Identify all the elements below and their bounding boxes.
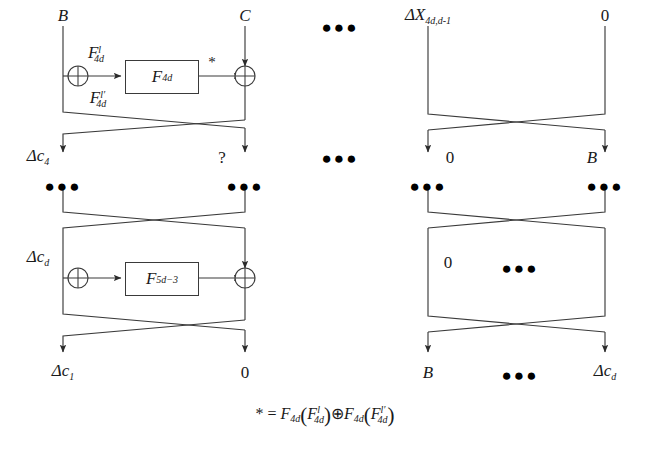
formula-star: *: [256, 405, 264, 422]
input-label-c: C: [239, 7, 250, 24]
f-box-row1-sub: 4d: [162, 72, 172, 83]
xor-gate-row3-right: [235, 268, 255, 288]
delta-x-sub: 4d,d-1: [425, 15, 451, 26]
output-label-delta-c1: Δc1: [52, 362, 75, 382]
row2-label-delta-c4: Δc4: [27, 147, 50, 167]
xor-gate-row1-right: [235, 66, 255, 86]
row3-ellipsis: ●●●: [502, 260, 539, 277]
f-function-box-row3[interactable]: F5d−3: [125, 262, 199, 296]
row3-label-delta-cd: Δcd: [27, 248, 50, 268]
row3-label-zero: 0: [444, 254, 453, 271]
wire-cross-3a: [63, 308, 245, 330]
row2-vertical-ellipsis-1: ●●●: [45, 178, 82, 195]
wire-cross-2c: [428, 190, 605, 228]
delta-cd-base: Δc: [27, 247, 45, 266]
wire-cross-2a: [63, 190, 245, 228]
wire-cross-2d: [428, 190, 605, 228]
row4-ellipsis: ●●●: [502, 367, 539, 384]
wire-cross-2b: [63, 190, 245, 244]
formula-xor: ⊕: [331, 405, 344, 422]
wire-cross-1c: [428, 108, 605, 130]
formula-close2: ): [387, 403, 394, 427]
wire-cross-3c: [428, 310, 605, 332]
delta-cd-out-sub: d: [611, 371, 616, 382]
wire-cross-1a: [63, 106, 245, 128]
row2-vertical-ellipsis-4: ●●●: [587, 178, 624, 195]
diagram-canvas: B C ●●● ΔX4d,d-1 0 Fl4d Fl′4d F4d * Δc4 …: [0, 0, 648, 454]
delta-x-base: ΔX: [405, 5, 425, 24]
delta-c4-base: Δc: [27, 146, 45, 165]
delta-cd-out-base: Δc: [594, 361, 612, 380]
f-box-row3-label: F: [146, 269, 156, 289]
row2-vertical-ellipsis-2: ●●●: [227, 178, 264, 195]
delta-c4-sub: 4: [44, 156, 49, 167]
output-label-zero: 0: [241, 364, 250, 381]
branch-label-bottom-row1: Fl′4d: [90, 89, 106, 109]
xor-gate-row1-left: [68, 66, 88, 86]
branch-top-sub: 4d: [94, 53, 104, 64]
row2-vertical-ellipsis-3: ●●●: [410, 178, 447, 195]
wire-layer: [0, 0, 648, 454]
row1-ellipsis: ●●●: [322, 19, 359, 36]
branch-bottom-sub: 4d: [96, 98, 106, 109]
row2-mid-ellipsis: ●●●: [322, 150, 359, 167]
xor-gate-row3-left: [68, 268, 88, 288]
input-label-zero: 0: [601, 7, 610, 24]
input-label-delta-x: ΔX4d,d-1: [405, 6, 451, 26]
input-label-b: B: [58, 7, 68, 24]
row2-label-question: ?: [218, 149, 226, 166]
delta-c1-sub: 1: [69, 371, 74, 382]
output-label-delta-cd: Δcd: [594, 362, 617, 382]
formula-f1-sub: 4d: [290, 413, 300, 424]
f-box-row3-sub: 5d−3: [156, 274, 178, 285]
wire-cross-3d: [428, 310, 605, 332]
formula-f3-sub: 4d: [354, 413, 364, 424]
formula-f3: F: [344, 405, 354, 422]
delta-cd-sub: d: [44, 257, 49, 268]
footnote-formula: * = F4d(Fl4d)⊕F4d(Fl′4d): [256, 405, 395, 426]
formula-f2-sub: 4d: [314, 413, 324, 424]
formula-open1: (: [300, 403, 307, 427]
row2-label-b: B: [587, 149, 597, 166]
formula-f1: F: [281, 405, 291, 422]
row2-label-zero: 0: [446, 149, 455, 166]
wire-cross-3b: [63, 320, 245, 352]
delta-c1-base: Δc: [52, 361, 70, 380]
f-box-row1-label: F: [152, 67, 162, 87]
f-function-box-row1[interactable]: F4d: [125, 60, 199, 94]
formula-equals: =: [268, 405, 277, 422]
branch-label-top-row1: Fl4d: [88, 44, 104, 64]
formula-f4-sub: 4d: [377, 413, 387, 424]
output-label-b: B: [423, 364, 433, 381]
wire-cross-1d: [428, 108, 605, 130]
star-marker-row1: *: [208, 55, 216, 70]
